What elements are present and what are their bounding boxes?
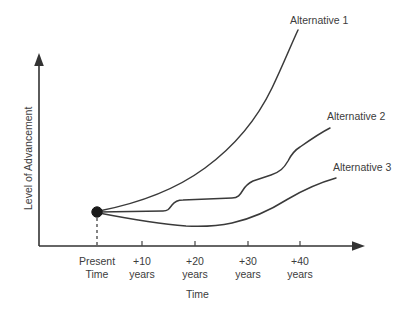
x-tick-label-plus-10-years-line2: years xyxy=(116,268,168,281)
x-tick-label-plus-10-years: +10 years xyxy=(116,255,168,280)
x-axis-title: Time xyxy=(186,288,209,300)
series-label-alternative-3: Alternative 3 xyxy=(333,161,391,173)
series-curve-alternative-2 xyxy=(99,128,330,212)
x-tick-label-plus-10-years-line1: +10 xyxy=(116,255,168,268)
x-tick-label-plus-40-years: +40 years xyxy=(274,255,326,280)
x-tick-label-plus-30-years: +30 years xyxy=(222,255,274,280)
chart-container: Alternative 1 Alternative 2 Alternative … xyxy=(0,0,408,311)
x-tick-label-plus-30-years-line1: +30 xyxy=(222,255,274,268)
x-tick-label-plus-20-years: +20 years xyxy=(169,255,221,280)
present-time-marker-dot xyxy=(92,207,102,217)
x-tick-label-plus-20-years-line1: +20 xyxy=(169,255,221,268)
x-tick-label-plus-30-years-line2: years xyxy=(222,268,274,281)
y-axis-arrow-icon xyxy=(34,53,44,66)
series-label-alternative-1: Alternative 1 xyxy=(290,14,348,26)
x-axis-arrow-icon xyxy=(352,241,365,251)
x-tick-label-plus-20-years-line2: years xyxy=(169,268,221,281)
series-curve-alternative-1 xyxy=(99,30,298,211)
y-axis-title: Level of Advancement xyxy=(22,107,34,210)
x-tick-label-plus-40-years-line1: +40 xyxy=(274,255,326,268)
x-tick-label-plus-40-years-line2: years xyxy=(274,268,326,281)
series-label-alternative-2: Alternative 2 xyxy=(327,110,385,122)
